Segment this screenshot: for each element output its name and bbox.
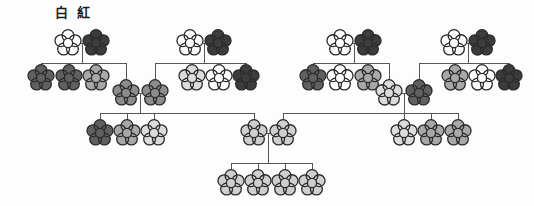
flower-node: [56, 65, 82, 90]
flower-node: [300, 65, 326, 90]
flower-node: [441, 30, 467, 55]
flower-center: [253, 178, 262, 187]
flower-node: [87, 120, 113, 145]
flower-center: [449, 38, 458, 47]
flower-center: [399, 128, 408, 137]
flower-node: [469, 65, 495, 90]
flower-node: [327, 65, 353, 90]
flower-node: [114, 120, 140, 145]
flower-center: [278, 128, 287, 137]
flower-center: [414, 88, 423, 97]
flower-node: [272, 170, 298, 195]
flower-center: [335, 38, 344, 47]
flower-center: [363, 38, 372, 47]
flower-node: [141, 120, 167, 145]
flower-node: [205, 30, 231, 55]
flower-node: [218, 170, 244, 195]
flower-node: [355, 65, 381, 90]
flower-node: [406, 80, 432, 105]
flower-node: [299, 170, 325, 195]
flower-center: [426, 128, 435, 137]
flower-node: [270, 120, 296, 145]
flower-node: [376, 80, 402, 105]
flower-node: [418, 120, 444, 145]
flower-node: [469, 30, 495, 55]
flower-center: [213, 38, 222, 47]
flower-center: [241, 73, 250, 82]
flower-center: [453, 128, 462, 137]
flower-center: [122, 128, 131, 137]
flower-center: [384, 88, 393, 97]
flower-center: [95, 128, 104, 137]
flower-center: [64, 73, 73, 82]
flower-center: [450, 73, 459, 82]
flower-node: [206, 65, 232, 90]
flower-center: [150, 88, 159, 97]
flower-center: [149, 128, 158, 137]
flower-node: [142, 80, 168, 105]
flower-center: [187, 73, 196, 82]
flower-center: [63, 38, 72, 47]
flower-center: [280, 178, 289, 187]
flower-node: [28, 65, 54, 90]
flower-center: [363, 73, 372, 82]
flower-node: [55, 30, 81, 55]
flower-center: [249, 128, 258, 137]
flower-node: [327, 30, 353, 55]
flower-node: [177, 30, 203, 55]
flower-center: [214, 73, 223, 82]
flower-center: [36, 73, 45, 82]
flower-center: [185, 38, 194, 47]
flower-center: [504, 73, 513, 82]
flower-center: [308, 73, 317, 82]
flower-node: [83, 65, 109, 90]
flower-center: [335, 73, 344, 82]
flower-center: [477, 38, 486, 47]
flower-node: [445, 120, 471, 145]
flower-center: [121, 88, 130, 97]
flower-node: [179, 65, 205, 90]
flower-node: [241, 120, 267, 145]
flower-node: [391, 120, 417, 145]
flower-node: [83, 30, 109, 55]
flower-node: [355, 30, 381, 55]
pedigree-chart: 白 紅: [0, 0, 534, 206]
flower-center: [477, 73, 486, 82]
pedigree-diagram: [0, 0, 534, 206]
flower-node: [442, 65, 468, 90]
flower-node: [113, 80, 139, 105]
flower-center: [307, 178, 316, 187]
flower-node: [496, 65, 522, 90]
flower-node: [245, 170, 271, 195]
flower-center: [91, 73, 100, 82]
flower-node: [233, 65, 259, 90]
flower-center: [91, 38, 100, 47]
flower-center: [226, 178, 235, 187]
